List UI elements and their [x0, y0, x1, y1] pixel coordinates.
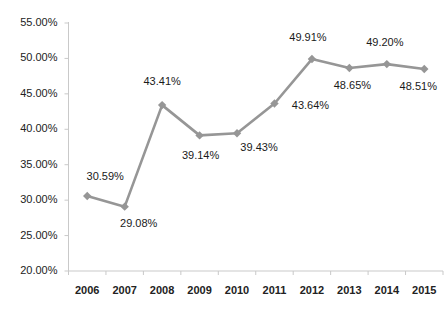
data-point-label: 30.59%	[83, 171, 127, 182]
y-axis-tick-label: 20.00%	[0, 265, 58, 276]
y-axis-tick-label: 45.00%	[0, 88, 58, 99]
x-axis-tick-label: 2013	[331, 285, 368, 296]
data-point-label: 43.41%	[140, 76, 184, 87]
x-axis-tick-label: 2015	[406, 285, 443, 296]
x-axis-tick-label: 2014	[368, 285, 405, 296]
y-axis-tick-label: 55.00%	[0, 17, 58, 28]
data-point-marker	[383, 60, 391, 68]
data-point-marker	[83, 192, 91, 200]
x-axis-tick-label: 2007	[106, 285, 143, 296]
y-axis-tick-label: 40.00%	[0, 123, 58, 134]
data-point-label: 48.51%	[396, 81, 440, 92]
data-point-markers	[83, 55, 428, 211]
y-axis-tick-label: 25.00%	[0, 230, 58, 241]
x-axis-tick-label: 2011	[256, 285, 293, 296]
x-axis-tick-label: 2006	[69, 285, 106, 296]
data-point-label: 43.64%	[288, 100, 332, 111]
data-point-label: 39.14%	[179, 150, 223, 161]
data-point-label: 49.20%	[363, 37, 407, 48]
data-point-label: 49.91%	[286, 32, 330, 43]
data-point-marker	[420, 65, 428, 73]
y-axis-tick-label: 30.00%	[0, 194, 58, 205]
x-axis-tick-label: 2008	[143, 285, 180, 296]
line-chart: 55.00%50.00%45.00%40.00%35.00%30.00%25.0…	[0, 0, 448, 309]
x-axis-tick-label: 2012	[293, 285, 330, 296]
y-axis-tick-label: 50.00%	[0, 52, 58, 63]
data-point-marker	[345, 64, 353, 72]
x-axis-tick-label: 2009	[181, 285, 218, 296]
x-axis-tick-label: 2010	[218, 285, 255, 296]
y-axis-tick-label: 35.00%	[0, 159, 58, 170]
data-point-label: 48.65%	[330, 80, 374, 91]
data-point-marker	[120, 202, 128, 210]
data-point-label: 29.08%	[117, 218, 161, 229]
data-point-label: 39.43%	[237, 142, 281, 153]
